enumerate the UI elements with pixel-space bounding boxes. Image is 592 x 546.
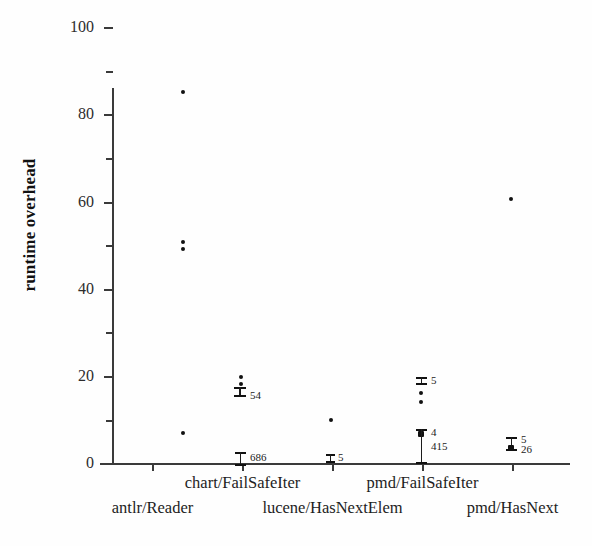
x-label-pmd-hasnext: pmd/HasNext xyxy=(420,498,592,518)
x-label-lucene-hasnextelem: lucene/HasNextElem xyxy=(240,498,425,518)
data-point xyxy=(239,382,243,386)
y-tick-minor-50 xyxy=(106,245,113,247)
figure-runtime-overhead: runtime overhead 100 80 60 40 xyxy=(0,0,592,546)
y-tick-minor-90 xyxy=(106,71,113,73)
y-tick-minor-70 xyxy=(106,158,113,160)
data-point xyxy=(239,375,243,379)
plot-area: 100 80 60 40 20 xyxy=(0,0,592,546)
y-tick-80 xyxy=(104,114,113,116)
errorbar-line xyxy=(421,429,423,464)
errorbar-cap-bottom xyxy=(326,461,335,463)
errorbar-annotation: 686 xyxy=(250,452,267,464)
errorbar-annotation: 26 xyxy=(521,444,532,456)
errorbar-annotation: 5 xyxy=(431,375,437,387)
y-tick-label-80: 80 xyxy=(42,105,94,123)
errorbar-annotation: 4 xyxy=(431,427,437,439)
y-tick-minor-30 xyxy=(106,332,113,334)
errorbar-annotation: 54 xyxy=(250,390,261,402)
x-axis-line xyxy=(100,463,570,465)
x-label-chart-failsafeiter: chart/FailSafeIter xyxy=(150,473,335,493)
y-axis-line xyxy=(112,88,114,464)
errorbar-annotation: 415 xyxy=(431,441,448,453)
data-point xyxy=(181,240,185,244)
x-label-pmd-failsafeiter: pmd/FailSafeIter xyxy=(330,473,515,493)
x-tick-antlr-reader xyxy=(152,463,154,471)
y-tick-60 xyxy=(104,202,113,204)
x-tick-lucene-hasnextelem xyxy=(332,463,334,471)
errorbar-cap-bottom xyxy=(235,464,246,466)
errorbar-cap-bottom xyxy=(416,462,427,464)
data-point xyxy=(181,247,185,251)
errorbar-annotation: 5 xyxy=(338,452,344,464)
data-point xyxy=(419,400,423,404)
y-tick-label-40: 40 xyxy=(42,280,94,298)
data-point xyxy=(329,418,333,422)
data-point xyxy=(181,90,185,94)
y-tick-label-20: 20 xyxy=(42,367,94,385)
data-point xyxy=(419,391,423,395)
y-tick-100 xyxy=(104,27,113,29)
y-tick-label-100: 100 xyxy=(42,18,94,36)
y-tick-40 xyxy=(104,289,113,291)
y-tick-label-0: 0 xyxy=(42,454,94,472)
x-label-antlr-reader: antlr/Reader xyxy=(60,498,245,518)
x-tick-pmd-hasnext xyxy=(512,463,514,471)
y-tick-label-60: 60 xyxy=(42,193,94,211)
y-tick-20 xyxy=(104,376,113,378)
data-point xyxy=(181,431,185,435)
data-point xyxy=(509,197,513,201)
errorbar-cap-bottom xyxy=(506,449,517,451)
x-tick-pmd-failsafeiter xyxy=(422,463,424,471)
errorbar-cap-bottom xyxy=(234,395,246,397)
y-tick-0 xyxy=(104,463,113,465)
errorbar-cap-bottom xyxy=(416,383,427,385)
y-tick-minor-10 xyxy=(106,420,113,422)
